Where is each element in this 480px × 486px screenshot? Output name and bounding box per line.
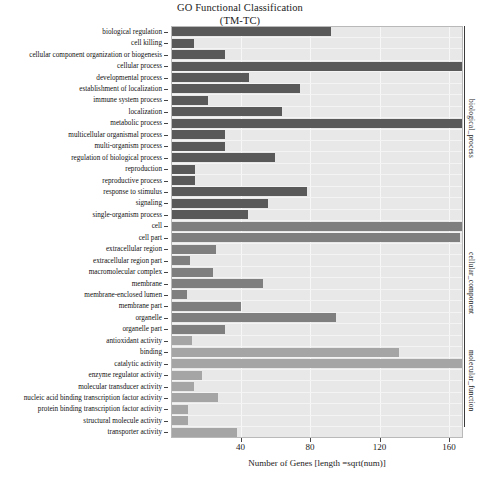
y-axis-label: metabolic process [110,119,162,127]
gridline-y [171,163,463,164]
chart-title-line-1: GO Functional Classification [0,2,480,15]
bar [171,359,463,368]
y-axis-label: reproductive process [102,177,162,185]
y-axis-label: extracellular region part [93,257,162,265]
bar [171,50,225,59]
bar [171,279,263,288]
y-axis-tick [164,55,168,56]
y-axis-label: cellular component organization or bioge… [29,51,162,59]
bar [171,210,248,219]
x-axis-ticks: 4080120160 [0,438,480,452]
y-axis-label: extracellular region [106,245,162,253]
y-axis-tick [164,112,168,113]
group-label-cellular_component: cellular_component [463,232,480,335]
y-axis-tick [164,387,168,388]
y-axis-label: reproduction [125,165,162,173]
y-axis-label: molecular transducer activity [78,383,162,391]
y-axis-label: protein binding transcription factor act… [38,405,162,413]
gridline-y [171,403,463,404]
y-axis-tick [164,169,168,170]
x-axis-tick-label: 160 [442,442,456,452]
group-label-text: biological_process [467,99,476,158]
y-axis-labels: biological regulationcell killingcellula… [0,26,168,438]
y-axis-tick [164,432,168,433]
y-axis-tick [164,329,168,330]
y-axis-tick [164,352,168,353]
y-axis-label: membrane [132,280,162,288]
y-axis-label: macromolecular complex [89,268,162,276]
y-axis-label: biological regulation [102,28,162,36]
bar [171,428,237,437]
bar [171,165,195,174]
bar [171,73,249,82]
y-axis-label: transporter activity [108,428,163,436]
bar [171,142,225,151]
y-axis-label: multicellular organismal process [68,131,162,139]
y-axis-label: organelle [135,314,162,322]
y-axis-label: cell part [139,234,162,242]
bar [171,268,213,277]
y-axis-label: cell killing [131,39,162,47]
y-axis-tick [164,375,168,376]
y-axis-label: membrane part [119,302,162,310]
y-axis-tick [164,100,168,101]
y-axis-tick [164,341,168,342]
gridline-y [171,174,463,175]
bar [171,245,216,254]
y-axis-tick [164,261,168,262]
bar [171,96,208,105]
y-axis-label: organelle part [122,325,162,333]
y-axis-tick [164,284,168,285]
x-axis-tick-label: 120 [373,442,387,452]
go-functional-classification-chart: GO Functional Classification (TM-TC) bio… [0,0,480,486]
y-axis-label: single-organism process [92,211,162,219]
group-label-text: cellular_component [467,252,476,314]
y-axis-label: membrane-enclosed lumen [84,291,162,299]
bar [171,62,463,71]
x-axis-title: Number of Genes [length =sqrt(num)] [171,458,463,468]
y-axis-tick [164,215,168,216]
bar [171,290,187,299]
bar [171,187,307,196]
y-axis-tick [164,89,168,90]
gridline-y [171,289,463,290]
group-label-biological_process: biological_process [463,26,480,232]
y-axis-tick [164,146,168,147]
y-axis-tick [164,306,168,307]
bar [171,233,460,242]
y-axis-tick [164,203,168,204]
y-axis-label: establishment of localization [79,85,162,93]
bar [171,176,195,185]
y-axis-tick [164,238,168,239]
y-axis-tick [164,192,168,193]
bar [171,348,399,357]
y-axis-label: regulation of biological process [71,154,162,162]
gridline-y [171,94,463,95]
y-axis-tick [164,272,168,273]
y-axis-tick [164,398,168,399]
y-axis-tick [164,43,168,44]
y-axis-tick [164,78,168,79]
bar [171,222,463,231]
y-axis-tick [164,421,168,422]
y-axis-label: cell [152,222,162,230]
y-axis-label: enzyme regulator activity [89,371,162,379]
bar [171,393,218,402]
y-axis-tick [164,32,168,33]
y-axis-tick [164,123,168,124]
bar [171,405,188,414]
ontology-group-labels: biological_processcellular_componentmole… [463,26,480,438]
y-axis-label: nucleic acid binding transcription facto… [24,394,162,402]
y-axis-tick [164,295,168,296]
bar [171,302,241,311]
y-axis-label: localization [128,108,162,116]
x-axis-tick-label: 80 [306,442,315,452]
y-axis-label: cellular process [117,62,162,70]
group-label-text: molecular_function [467,350,476,411]
y-axis-tick [164,249,168,250]
y-axis-tick [164,409,168,410]
y-axis-label: immune system process [93,96,162,104]
bar [171,416,188,425]
group-label-molecular_function: molecular_function [463,335,480,427]
bar [171,336,192,345]
